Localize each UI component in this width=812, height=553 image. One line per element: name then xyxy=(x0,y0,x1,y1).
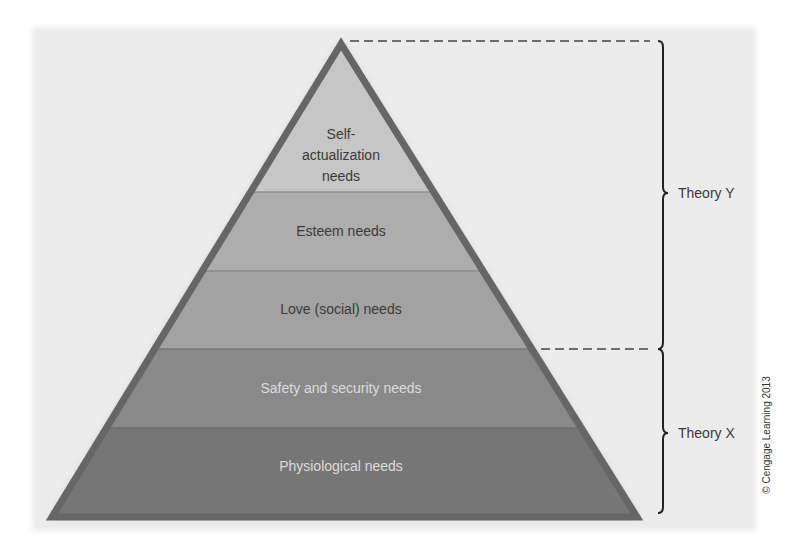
copyright-notice: © Cengage Learning 2013 xyxy=(761,376,772,493)
label-line: Self- xyxy=(302,124,380,145)
label-physiological: Physiological needs xyxy=(279,456,403,477)
label-love: Love (social) needs xyxy=(280,299,401,320)
label-safety: Safety and security needs xyxy=(260,378,421,399)
theory-x-brace-icon xyxy=(658,349,668,513)
label-esteem: Esteem needs xyxy=(296,221,386,242)
pyramid-diagram xyxy=(0,0,812,553)
theory-y-brace-icon xyxy=(658,41,668,349)
label-line: needs xyxy=(302,166,380,187)
theory-x-label: Theory X xyxy=(678,425,735,441)
label-self-actualization: Self- actualization needs xyxy=(302,124,380,187)
label-line: actualization xyxy=(302,145,380,166)
theory-y-label: Theory Y xyxy=(678,185,735,201)
